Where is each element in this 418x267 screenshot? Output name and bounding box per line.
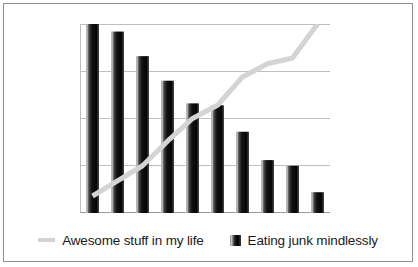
line-series-awesome-stuff-in-my-life	[93, 24, 318, 196]
legend-label: Awesome stuff in my life	[62, 233, 203, 248]
bar	[236, 132, 249, 213]
plot-area	[80, 24, 330, 213]
bar	[86, 24, 99, 213]
chart-canvas	[80, 24, 330, 213]
bar	[286, 166, 299, 213]
chart-figure: Awesome stuff in my life Eating junk min…	[0, 0, 418, 267]
bar	[311, 192, 324, 213]
bar	[211, 105, 224, 213]
legend-item-awesome-stuff-in-my-life[interactable]: Awesome stuff in my life	[38, 233, 203, 248]
legend-item-eating-junk-mindlessly[interactable]: Eating junk mindlessly	[230, 233, 378, 248]
bar	[136, 56, 149, 213]
legend-line-swatch-icon	[38, 238, 55, 242]
legend-bar-swatch-icon	[230, 235, 241, 246]
legend-label: Eating junk mindlessly	[248, 233, 378, 248]
bar	[261, 160, 274, 213]
chart-legend: Awesome stuff in my life Eating junk min…	[3, 228, 413, 252]
